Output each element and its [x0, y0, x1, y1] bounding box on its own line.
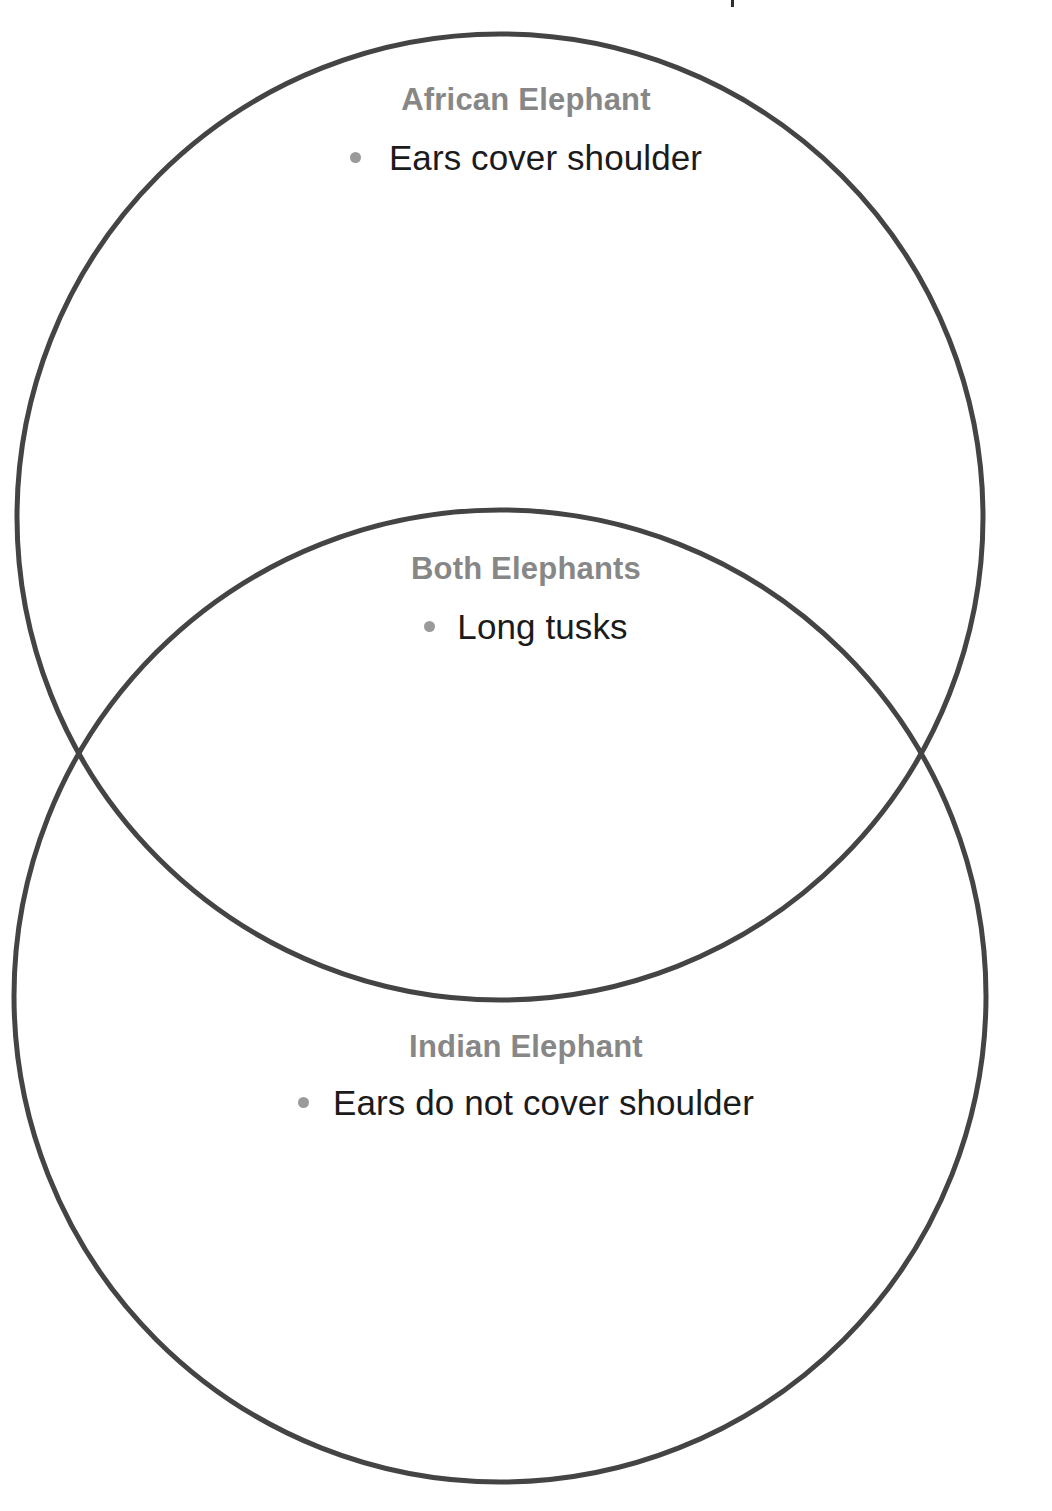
region-title-indian-elephant: Indian Elephant: [0, 1031, 1052, 1064]
circle-african-elephant: [17, 34, 983, 1000]
region-title-african-elephant: African Elephant: [0, 84, 1052, 117]
list-item: Long tusks: [424, 608, 627, 647]
venn-circles: [0, 0, 1052, 1511]
list-item: Ears do not cover shoulder: [298, 1084, 754, 1123]
region-title-both-elephants: Both Elephants: [0, 553, 1052, 586]
bullet-icon: [350, 152, 361, 163]
region-african-elephant: African Elephant Ears cover shoulder: [0, 84, 1052, 177]
region-indian-elephant: Indian Elephant Ears do not cover should…: [0, 1031, 1052, 1122]
venn-diagram-page: African Elephant Ears cover shoulder Bot…: [0, 0, 1052, 1511]
bullet-icon: [424, 621, 435, 632]
bullet-icon: [298, 1097, 309, 1108]
region-item-text: Ears cover shoulder: [389, 139, 702, 178]
list-item: Ears cover shoulder: [350, 139, 702, 178]
region-both-elephants: Both Elephants Long tusks: [0, 553, 1052, 646]
circle-indian-elephant: [14, 510, 986, 1482]
region-item-text: Ears do not cover shoulder: [333, 1084, 754, 1123]
region-item-text: Long tusks: [457, 608, 627, 647]
